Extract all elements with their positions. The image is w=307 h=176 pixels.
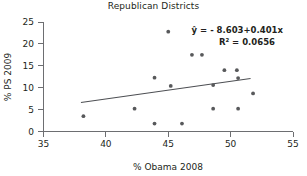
chart-page: Republican Districts 0510152025 35404550… xyxy=(0,0,307,176)
scatter-plot: 0510152025 3540455055 % Obama 2008 % PS … xyxy=(0,0,307,176)
y-tick-label: 20 xyxy=(23,39,35,49)
x-axis-label: % Obama 2008 xyxy=(133,162,203,172)
data-point xyxy=(153,76,157,80)
data-point xyxy=(133,107,137,111)
data-point xyxy=(166,30,170,34)
data-point xyxy=(180,122,184,126)
data-point xyxy=(251,91,255,95)
data-point xyxy=(211,107,215,111)
data-point xyxy=(200,53,204,57)
x-tick-label: 45 xyxy=(163,139,174,149)
y-axis-ticks: 0510152025 xyxy=(23,17,44,137)
data-point xyxy=(211,83,215,87)
regression-equation-annotation: ŷ = - 8.603+0.401x xyxy=(192,25,284,35)
x-axis-ticks: 3540455055 xyxy=(38,132,299,150)
data-point xyxy=(190,53,194,57)
x-tick-label: 55 xyxy=(287,139,298,149)
r-squared-annotation: R² = 0.0656 xyxy=(219,37,275,47)
y-tick-label: 5 xyxy=(28,105,34,115)
y-axis-label: % PS 2009 xyxy=(3,53,13,102)
data-point xyxy=(169,84,173,88)
y-tick-label: 0 xyxy=(28,127,34,137)
data-point xyxy=(236,76,240,80)
regression-line xyxy=(81,79,251,103)
y-tick-label: 10 xyxy=(23,83,35,93)
data-point xyxy=(235,68,239,72)
data-point xyxy=(222,68,226,72)
x-tick-label: 50 xyxy=(225,139,237,149)
x-tick-label: 35 xyxy=(38,139,49,149)
x-tick-label: 40 xyxy=(100,139,112,149)
regression-line-segment xyxy=(81,79,251,103)
y-tick-label: 25 xyxy=(23,17,34,27)
y-tick-label: 15 xyxy=(23,61,34,71)
data-point xyxy=(82,114,86,118)
data-point xyxy=(236,107,240,111)
data-point xyxy=(153,122,157,126)
